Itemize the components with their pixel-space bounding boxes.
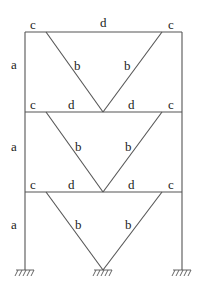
braced-frame-diagram: c d c a b b c d d c a b b c d d c a b b (0, 0, 200, 297)
fixed-support-right-icon (172, 270, 191, 276)
fixed-support-left-icon (15, 270, 34, 276)
label-mid-right-b: b (125, 139, 132, 154)
label-mid-right-c: c (168, 97, 174, 112)
label-bot-left-c: c (30, 177, 36, 192)
label-mid-d-left: d (68, 97, 75, 112)
label-bot-d-right: d (128, 177, 135, 192)
label-bot-right-c: c (168, 177, 174, 192)
label-bot-right-b: b (125, 217, 132, 232)
label-top-right-c: c (168, 17, 174, 32)
label-mid-a: a (11, 139, 17, 154)
label-bot-d-left: d (68, 177, 75, 192)
label-top-left-b: b (74, 58, 81, 73)
label-bot-a: a (11, 217, 17, 232)
label-mid-left-b: b (75, 139, 82, 154)
label-bot-left-b: b (75, 217, 82, 232)
fixed-support-center-icon (93, 270, 112, 276)
label-mid-d-right: d (128, 97, 135, 112)
label-top-a: a (11, 57, 17, 72)
bottom-storey-brace-right (103, 192, 162, 270)
label-top-d: d (100, 15, 107, 30)
label-top-right-b: b (124, 58, 131, 73)
label-mid-left-c: c (30, 97, 36, 112)
label-top-left-c: c (30, 17, 36, 32)
